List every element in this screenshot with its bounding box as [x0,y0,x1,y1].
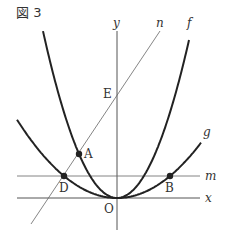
origin-label: O [104,202,114,216]
y-axis-label: y [112,16,120,30]
line-m-label: m [205,169,216,183]
line-n-label: n [156,16,164,30]
point-D-marker [61,173,67,179]
point-B-marker [167,173,173,179]
diagram-canvas: y n f g m x E A D B O [0,0,229,241]
curve-g-label: g [203,125,211,139]
x-axis-label: x [205,191,212,205]
point-A-marker [76,151,82,157]
curve-f-label: f [186,16,194,30]
point-A-label: A [83,147,93,161]
point-B-label: B [165,181,174,195]
point-D-label: D [59,181,69,195]
point-E-label: E [103,87,112,101]
